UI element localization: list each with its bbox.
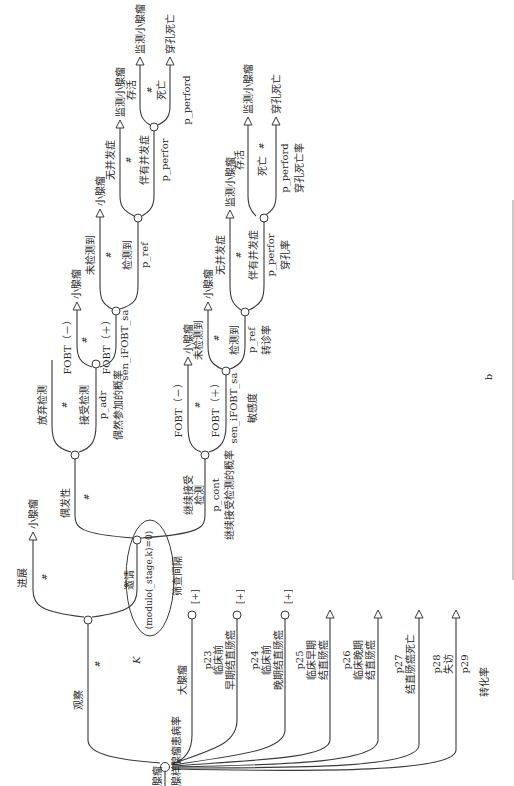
invite-condition: (modulo(_stage,k)=0) — [144, 531, 155, 630]
cont-det-hash: # — [212, 334, 221, 341]
edge-cont-survive — [248, 125, 256, 216]
cont-fobt-pos: FOBT（＋） — [210, 378, 221, 437]
adhoc-survive-term: 监测小腺瘤 — [134, 4, 146, 54]
continue-label-2: 检测 — [193, 485, 205, 505]
adhoc-no-comp-terminal-icon[interactable] — [116, 120, 124, 128]
observe-label: 观察 — [72, 690, 84, 710]
p26-prob: p26 — [341, 650, 352, 669]
cont-undetected-term: 小腺瘤 — [202, 269, 214, 299]
adhoc-comp-node[interactable] — [150, 123, 158, 131]
adhoc-accept-node[interactable] — [92, 360, 100, 368]
continue-prob-desc: 继续接受检测的概率 — [223, 450, 235, 540]
cont-undetected-terminal-icon[interactable] — [204, 302, 212, 310]
adhoc-det-hash: # — [104, 251, 113, 258]
adhoc-death-term: 穿孔死亡 — [164, 14, 176, 54]
adhoc-with-comp: 伴有并发症 — [138, 135, 150, 185]
adhoc-det-prob: p_ref — [139, 241, 151, 268]
p24-line1: 临床前 — [260, 645, 272, 675]
adhoc-chance-node[interactable] — [71, 451, 79, 459]
large-label: 大腺瘤 — [176, 665, 188, 695]
adhoc-fobt-pos: FOBT（＋） — [101, 315, 112, 374]
cont-fobt-desc: 敏感度 — [246, 393, 258, 423]
cont-survive-terminal-icon[interactable] — [244, 117, 252, 125]
cont-death-terminal-icon[interactable] — [272, 117, 280, 125]
p23-node[interactable] — [233, 611, 241, 619]
adhoc-death-hash: # — [145, 86, 154, 93]
cont-det-prob: p_ref — [246, 326, 258, 353]
adhoc-undetected: 未检测到 — [84, 235, 96, 275]
adhoc-undetected-terminal-icon[interactable] — [96, 209, 104, 217]
adhoc-fobt-neg-term: 小腺瘤 — [70, 269, 82, 299]
continue-label-1: 继续接受 — [182, 475, 194, 515]
edge-observe — [88, 624, 160, 763]
edge-p27 — [172, 618, 419, 768]
edge-cont-no-comp — [230, 218, 241, 310]
adhoc-detected-node[interactable] — [134, 214, 142, 222]
cont-fobt-neg: FOBT（－） — [173, 378, 184, 437]
cont-detected: 检测到 — [228, 325, 240, 355]
adhoc-death-prob: p_perford — [181, 75, 193, 125]
cont-death-term: 穿孔死亡 — [270, 74, 282, 114]
cont-death: 死亡 — [256, 156, 268, 176]
cont-undetected: 未检测到 — [192, 320, 204, 360]
p23-prob: p23 — [202, 650, 213, 669]
cont-detected-node[interactable] — [241, 308, 249, 316]
observe-chance-node[interactable] — [84, 616, 92, 624]
p28-terminal-icon[interactable] — [452, 610, 460, 618]
k-label: K — [131, 656, 142, 665]
adhoc-fobt-prob: sen_iFOBT_sa — [119, 309, 131, 380]
cont-with-comp: 伴有并发症 — [247, 230, 259, 280]
cont-no-comp: 无并发症 — [214, 235, 226, 275]
edge-adhoc-no-comp — [120, 128, 134, 216]
p26-terminal-icon[interactable] — [374, 610, 382, 618]
p25-line1: 临床早期 — [305, 640, 317, 680]
progress-terminal-icon[interactable] — [29, 532, 37, 540]
p28-prob: p28 — [431, 654, 442, 673]
adhoc-fobt-neg-terminal-icon[interactable] — [73, 302, 81, 310]
cont-det-desc: 转诊率 — [260, 325, 272, 355]
rate-label: 转化率 — [478, 667, 490, 697]
observe-hash: # — [93, 660, 102, 667]
p24-prob: p24 — [249, 650, 260, 669]
adhoc-prob: p_adr — [97, 391, 109, 420]
adhoc-survive-terminal-icon[interactable] — [136, 57, 144, 65]
cont-death-hash: # — [257, 142, 266, 149]
cont-no-comp-terminal-icon[interactable] — [226, 210, 234, 218]
p26-line2: 结直肠癌 — [364, 640, 376, 680]
continue-chance-node[interactable] — [201, 451, 209, 459]
cont-fobt-neg-terminal-icon[interactable] — [184, 357, 192, 365]
p27-terminal-icon[interactable] — [415, 610, 423, 618]
figure-label: b — [483, 374, 494, 380]
edge-adhoc-undetected — [100, 217, 112, 309]
adhoc-death-terminal-icon[interactable] — [166, 57, 174, 65]
large-adenoma-node[interactable] — [188, 611, 196, 619]
p23-line2: 早期结直肠癌 — [224, 630, 236, 690]
adhoc-comp-prob: p_perfor — [159, 138, 171, 181]
p25-terminal-icon[interactable] — [326, 610, 334, 618]
p23-line1: 临床前 — [212, 645, 224, 675]
cont-survive-term: 监测小腺瘤 — [242, 64, 254, 114]
root-label: 腺瘤 — [151, 766, 163, 786]
decision-tree-diagram: 腺瘤 腺样腺瘤患病率 观察 # K 进展 # 小腺瘤 邀请 (modulo(_s… — [0, 0, 514, 786]
p23-mark: [+] — [235, 589, 245, 604]
progress-hash: # — [40, 573, 49, 580]
p25-line2: 结直肠癌 — [317, 640, 329, 680]
cont-death-prob: p_perford — [279, 143, 291, 193]
cont-comp-node[interactable] — [260, 214, 268, 222]
adhoc-detected: 检测到 — [121, 240, 133, 270]
adhoc-fobt-hash: # — [80, 336, 89, 343]
adhoc-no-comp: 无并发症 — [104, 140, 116, 180]
p24-node[interactable] — [281, 611, 289, 619]
cont-comp-prob: p_perfor — [265, 233, 277, 276]
p27-line1: 结直肠癌死亡 — [404, 634, 416, 694]
incidence-hash: # — [82, 493, 91, 500]
invite-chance-node[interactable] — [133, 536, 141, 544]
invite-label: 邀请 — [123, 570, 135, 590]
adhoc-hash: # — [60, 401, 69, 408]
continue-prob: p_cont — [210, 478, 222, 511]
p27-prob: p27 — [393, 654, 404, 673]
p26-line1: 临床晚期 — [352, 640, 364, 680]
cont-comp-hash: # — [234, 251, 243, 258]
adhoc-death: 死亡 — [155, 80, 167, 100]
adhoc-survive: 存活 — [125, 80, 137, 100]
